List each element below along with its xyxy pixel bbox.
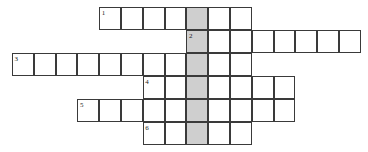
crossword-cell[interactable] (186, 30, 208, 53)
crossword-cell[interactable] (230, 7, 252, 30)
crossword-cell[interactable] (186, 76, 208, 99)
crossword-cell[interactable] (274, 99, 296, 122)
crossword-cell[interactable] (230, 53, 252, 76)
crossword-cell[interactable] (143, 122, 165, 145)
crossword-cell[interactable] (99, 53, 121, 76)
crossword-cell[interactable] (208, 7, 230, 30)
crossword-cell[interactable] (317, 30, 339, 53)
crossword-cell[interactable] (121, 99, 143, 122)
crossword-cell[interactable] (143, 99, 165, 122)
crossword-cell[interactable] (99, 7, 121, 30)
crossword-cell[interactable] (230, 30, 252, 53)
crossword-cell[interactable] (143, 76, 165, 99)
crossword-puzzle-grid: 123456 (0, 0, 368, 152)
crossword-cell[interactable] (56, 53, 78, 76)
crossword-cell[interactable] (186, 53, 208, 76)
crossword-cell[interactable] (186, 7, 208, 30)
crossword-cell[interactable] (230, 99, 252, 122)
crossword-cell[interactable] (252, 99, 274, 122)
crossword-cell[interactable] (165, 99, 187, 122)
crossword-cell[interactable] (165, 76, 187, 99)
crossword-cell[interactable] (186, 99, 208, 122)
crossword-cell[interactable] (165, 122, 187, 145)
crossword-cell[interactable] (295, 30, 317, 53)
crossword-cell[interactable] (208, 76, 230, 99)
crossword-cell[interactable] (77, 53, 99, 76)
crossword-cell[interactable] (143, 7, 165, 30)
crossword-cell[interactable] (274, 30, 296, 53)
crossword-cell[interactable] (34, 53, 56, 76)
crossword-cell[interactable] (121, 53, 143, 76)
crossword-cell[interactable] (165, 7, 187, 30)
crossword-cell[interactable] (99, 99, 121, 122)
crossword-cell[interactable] (186, 122, 208, 145)
crossword-cell[interactable] (339, 30, 361, 53)
crossword-cell[interactable] (230, 76, 252, 99)
crossword-cell[interactable] (121, 7, 143, 30)
crossword-cell[interactable] (12, 53, 34, 76)
crossword-cell[interactable] (165, 53, 187, 76)
crossword-cell[interactable] (208, 30, 230, 53)
crossword-cell[interactable] (274, 76, 296, 99)
crossword-cell[interactable] (208, 53, 230, 76)
crossword-cell[interactable] (208, 122, 230, 145)
crossword-cell[interactable] (252, 30, 274, 53)
crossword-cell[interactable] (252, 76, 274, 99)
crossword-cell[interactable] (208, 99, 230, 122)
crossword-cell[interactable] (230, 122, 252, 145)
crossword-cell[interactable] (77, 99, 99, 122)
crossword-cell[interactable] (143, 53, 165, 76)
